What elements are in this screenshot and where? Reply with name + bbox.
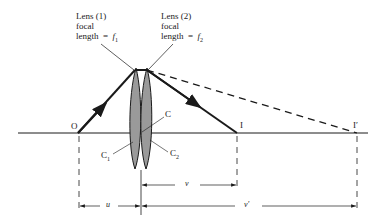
lens-2-focal: focal: [161, 21, 203, 31]
lens-2-focal-length: length = f2: [161, 31, 203, 45]
incident-ray-arrow: [78, 103, 106, 133]
lens-2-label: Lens (2) focal length = f2: [161, 11, 203, 45]
point-C1: C1: [101, 150, 110, 162]
lens-2-leader: [148, 44, 173, 70]
dim-label-v: v: [183, 179, 191, 188]
point-O: O: [71, 121, 78, 131]
lens-2-shape: [141, 68, 152, 169]
point-C: C: [165, 109, 171, 119]
point-I-prime: I′: [353, 120, 358, 130]
point-I: I: [240, 120, 243, 130]
single-lens-ray-dashed: [147, 70, 357, 133]
point-C2: C2: [170, 148, 179, 160]
dim-label-u: u: [104, 200, 112, 209]
lens-1-focal-length: length = f1: [76, 31, 118, 45]
c1-leader: [113, 142, 133, 154]
lens-1-shape: [130, 68, 141, 169]
c2-leader: [150, 140, 168, 152]
lens-1-leader: [101, 44, 134, 70]
refracted-ray-arrow: [147, 70, 200, 107]
dim-label-v-prime: v′: [242, 200, 251, 209]
lens-1-focal: focal: [76, 21, 118, 31]
lens-1-title: Lens (1): [76, 11, 118, 21]
lens-2-title: Lens (2): [161, 11, 203, 21]
lens-1-label: Lens (1) focal length = f1: [76, 11, 118, 45]
